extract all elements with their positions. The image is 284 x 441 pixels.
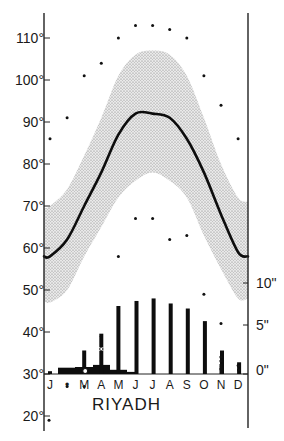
precip-tick-label: 0" — [256, 363, 269, 377]
y-tick-label: 110° — [16, 31, 44, 45]
chart-title: RIYADH — [92, 398, 161, 412]
extreme-dot — [202, 74, 205, 77]
precip-bar — [169, 303, 173, 374]
month-label: M — [79, 379, 89, 391]
extreme-dot — [151, 24, 154, 27]
y-tick-label: 40° — [23, 325, 44, 339]
month-label: D — [234, 379, 243, 391]
range-band — [44, 51, 248, 303]
extreme-dot — [220, 322, 223, 325]
precip-bar — [186, 309, 190, 374]
extreme-dot — [202, 293, 205, 296]
y-tick-label: 70° — [23, 199, 44, 213]
month-label: A — [166, 379, 174, 391]
extreme-dot — [83, 74, 86, 77]
precip-bar — [135, 301, 139, 374]
y-tick-label: 60° — [23, 241, 44, 255]
month-label: S — [183, 379, 191, 391]
month-label: J — [150, 379, 156, 391]
precip-bar — [152, 298, 156, 374]
y-tick-label: 20° — [23, 409, 44, 423]
extreme-dot — [185, 234, 188, 237]
extreme-dot — [134, 24, 137, 27]
y-tick-label: 100° — [15, 73, 44, 87]
precip-tick-label: 10" — [256, 276, 277, 290]
month-label: A — [97, 379, 105, 391]
precip-bar — [99, 334, 103, 374]
extreme-dot — [168, 28, 171, 31]
y-tick-label: 90° — [23, 115, 44, 129]
extreme-dot — [168, 238, 171, 241]
month-label: • — [65, 379, 69, 391]
extreme-dot — [117, 37, 120, 40]
extreme-dot — [134, 217, 137, 220]
precip-bar — [116, 306, 120, 374]
precipitation-bars — [48, 298, 241, 374]
y-tick-label: 50° — [23, 283, 44, 297]
extreme-dot — [66, 116, 69, 119]
extreme-dot — [237, 137, 240, 140]
precip-bar — [203, 321, 207, 374]
month-label: J — [47, 379, 53, 391]
temperature-range-band — [44, 51, 248, 303]
month-label: O — [199, 379, 208, 391]
precip-tick-label: 5" — [256, 318, 269, 332]
y-tick-label: 30° — [23, 367, 44, 381]
precip-bar — [237, 362, 241, 374]
y-tick-label: 80° — [23, 157, 44, 171]
extreme-dot — [49, 137, 52, 140]
month-label: N — [217, 379, 226, 391]
extreme-dot — [220, 104, 223, 107]
month-label: M — [113, 379, 123, 391]
extreme-dot — [48, 419, 51, 422]
extreme-dot — [117, 255, 120, 258]
extreme-dot — [151, 217, 154, 220]
extreme-dot — [100, 62, 103, 65]
extreme-dot — [185, 37, 188, 40]
month-label: J — [133, 379, 139, 391]
